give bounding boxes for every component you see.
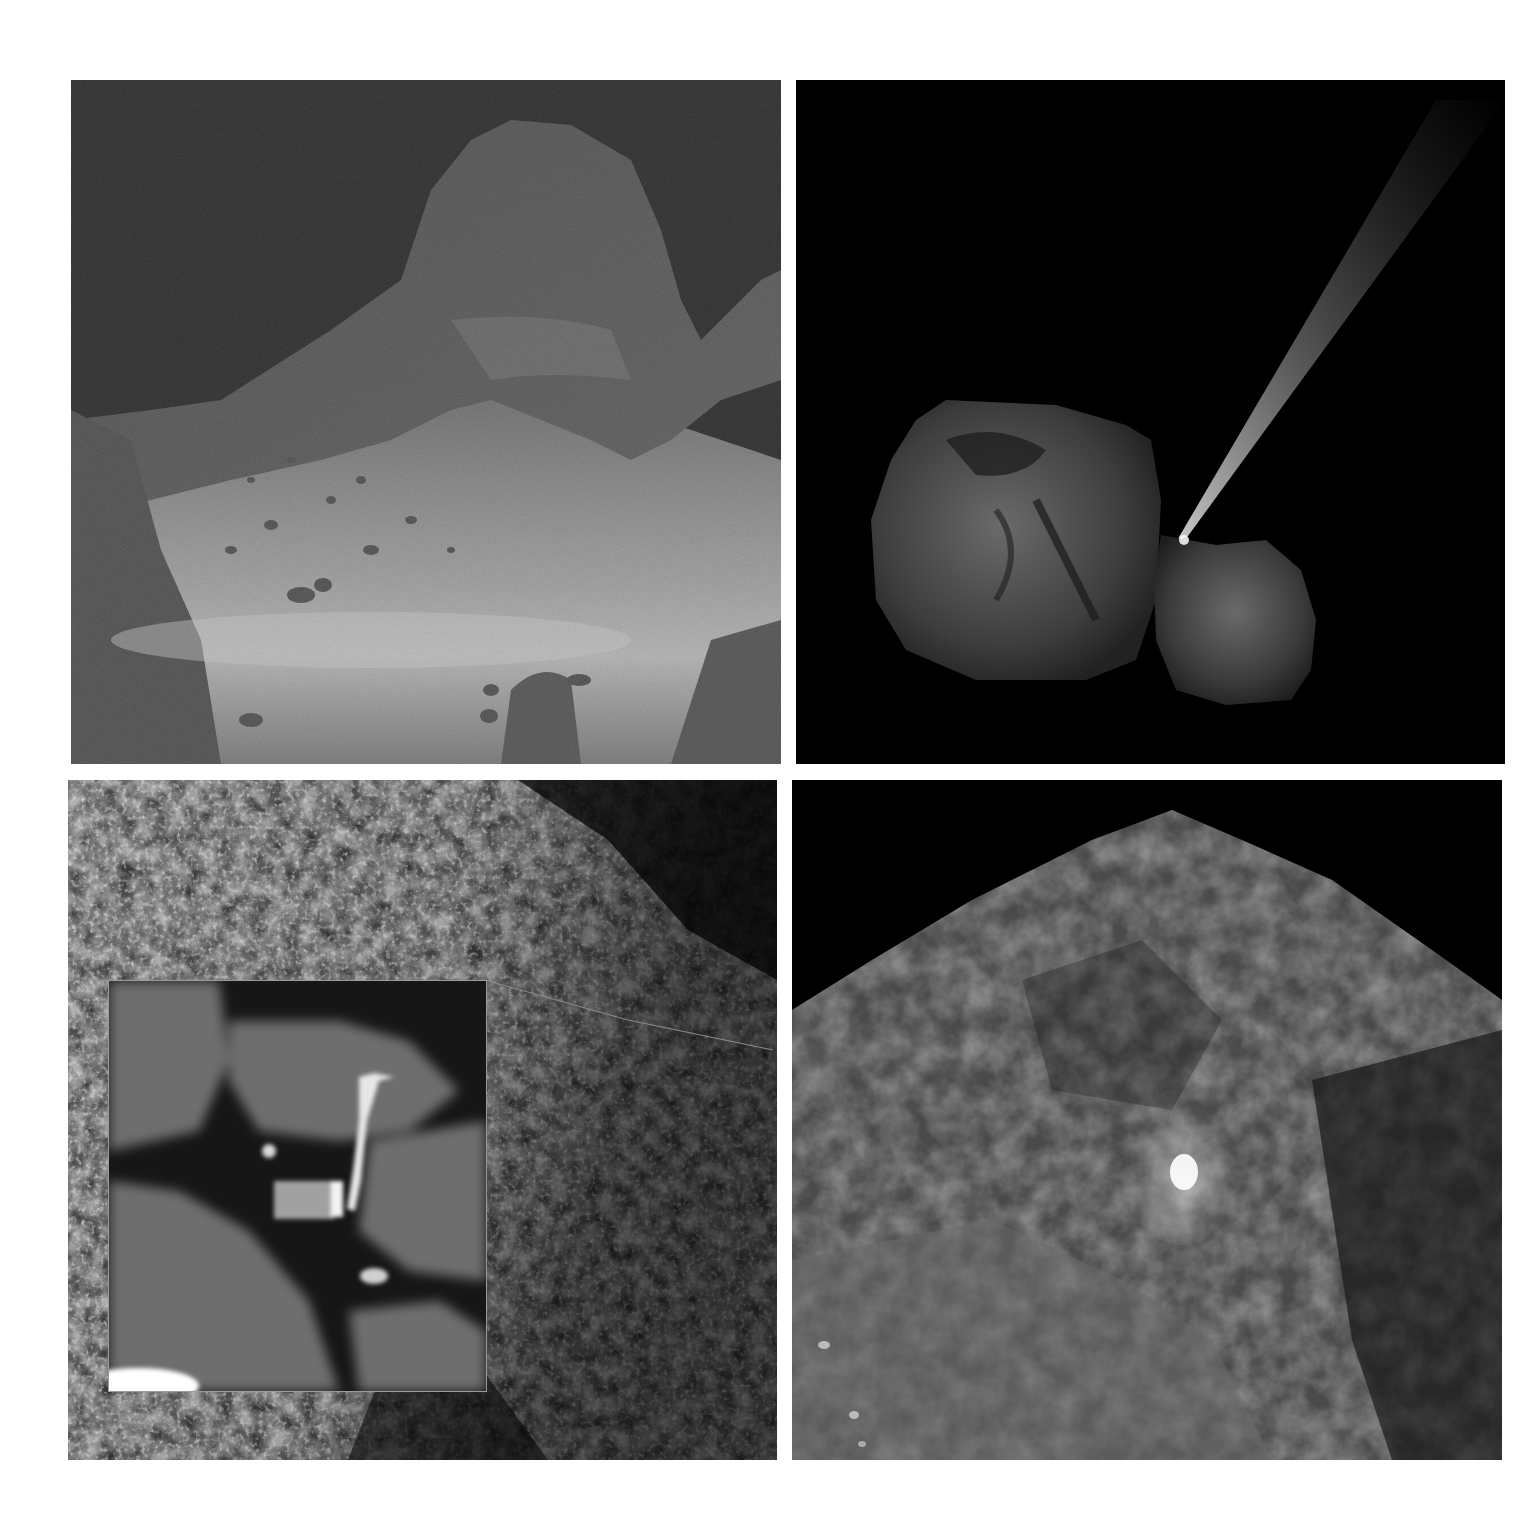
- outburst-terrain-image: [792, 780, 1502, 1460]
- photo-panel-bottom-right: Comet cliff terrain with a small bright …: [792, 780, 1502, 1460]
- lander-inset: Enlarged view of lander body with bright…: [108, 980, 487, 1392]
- cliff-boulder-field-image: [71, 80, 781, 764]
- photo-panel-top-right: Two-lobed comet nucleus against black sp…: [796, 80, 1505, 764]
- comet-nucleus-jet-image: [796, 80, 1505, 764]
- photo-panel-top-left: Close-up of comet surface: dark rocky cl…: [71, 80, 781, 764]
- photo-panel-bottom-left: Rough, rubbly comet terrain with a magni…: [68, 780, 777, 1460]
- lander-closeup-image: [109, 981, 486, 1391]
